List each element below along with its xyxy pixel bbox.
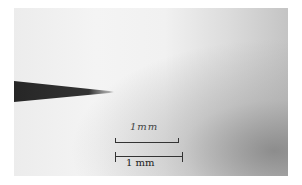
lower-scale-tick-right: [182, 152, 183, 162]
handwritten-scale-label: 1mm: [130, 121, 158, 132]
scale-bar-label: 1 mm: [126, 157, 155, 168]
photograph: 1mm 1 mm: [14, 8, 288, 176]
needle-tip: [14, 81, 114, 102]
upper-scale-tick-left: [115, 138, 116, 143]
lower-scale-tick-left: [115, 152, 116, 162]
upper-scale-bar: [115, 142, 178, 143]
upper-scale-tick-right: [178, 138, 179, 143]
